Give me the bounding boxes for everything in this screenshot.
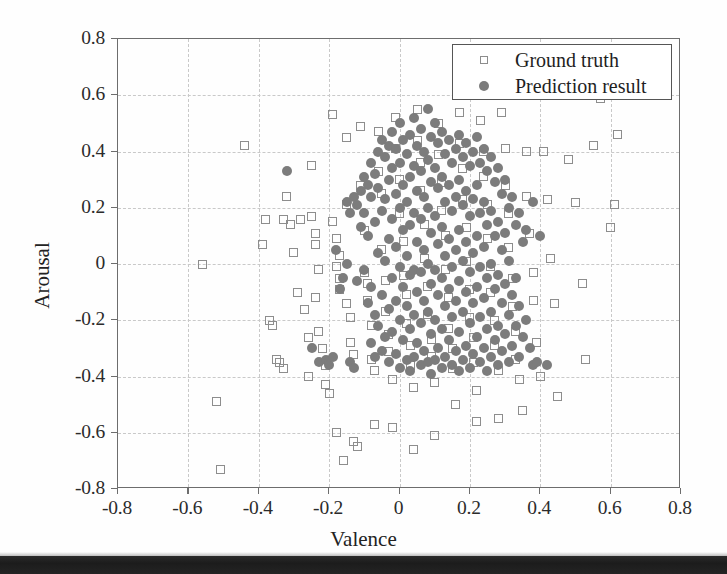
prediction-point (507, 290, 517, 300)
prediction-point (395, 158, 405, 168)
prediction-point (454, 276, 464, 286)
prediction-point (444, 234, 454, 244)
prediction-point (514, 301, 524, 311)
prediction-point (482, 220, 492, 230)
prediction-point (504, 357, 514, 367)
prediction-point (468, 194, 478, 204)
prediction-point (328, 352, 338, 362)
ground-truth-point (370, 420, 379, 429)
ground-truth-point (314, 265, 323, 274)
prediction-point (437, 273, 447, 283)
gridline-vertical (259, 39, 260, 487)
prediction-point (345, 208, 355, 218)
ground-truth-point (370, 366, 379, 375)
prediction-point (366, 192, 376, 202)
y-tick-mark (111, 376, 117, 377)
prediction-point (387, 214, 397, 224)
prediction-point (416, 166, 426, 176)
prediction-point (387, 327, 397, 337)
chart-legend: Ground truth Prediction result (452, 44, 672, 100)
ground-truth-point (314, 327, 323, 336)
y-tick-label: 0.6 (19, 83, 105, 105)
ground-truth-point (342, 299, 351, 308)
prediction-point (391, 296, 401, 306)
prediction-point (458, 200, 468, 210)
x-tick-label: -0.2 (313, 497, 343, 519)
prediction-point (493, 217, 503, 227)
legend-item-ground-truth: Ground truth (453, 47, 671, 73)
prediction-point (500, 279, 510, 289)
prediction-point (472, 282, 482, 292)
prediction-point (447, 206, 457, 216)
prediction-point (373, 321, 383, 331)
prediction-point (458, 256, 468, 266)
prediction-point (405, 130, 415, 140)
y-tick-label: -0.4 (19, 365, 105, 387)
x-axis-label: Valence (0, 527, 727, 552)
ground-truth-point (318, 344, 327, 353)
ground-truth-point (311, 293, 320, 302)
gridline-vertical (540, 39, 541, 487)
scan-bottom-band (0, 556, 727, 574)
prediction-point (398, 282, 408, 292)
prediction-point (497, 298, 507, 308)
ground-truth-point (282, 192, 291, 201)
x-tick-mark (610, 488, 611, 494)
prediction-point (525, 343, 535, 353)
y-axis-label: Arousal (30, 196, 55, 356)
prediction-point (349, 363, 359, 373)
x-tick-mark (469, 488, 470, 494)
prediction-point (497, 245, 507, 255)
prediction-point (338, 273, 348, 283)
prediction-point (426, 369, 436, 379)
prediction-point (444, 335, 454, 345)
ground-truth-point (332, 234, 341, 243)
open-square-icon (453, 56, 515, 64)
prediction-point (475, 208, 485, 218)
y-tick-mark (111, 207, 117, 208)
prediction-point (447, 158, 457, 168)
plot-area (117, 38, 680, 488)
ground-truth-point (216, 465, 225, 474)
gridline-vertical (329, 39, 330, 487)
prediction-point (482, 273, 492, 283)
prediction-point (395, 262, 405, 272)
ground-truth-point (529, 268, 538, 277)
ground-truth-point (409, 383, 418, 392)
prediction-point (504, 310, 514, 320)
ground-truth-point (472, 386, 481, 395)
prediction-point (500, 228, 510, 238)
ground-truth-point (342, 133, 351, 142)
x-tick-label: 0.2 (457, 497, 481, 519)
prediction-point (433, 183, 443, 193)
prediction-point (500, 175, 510, 185)
prediction-point (486, 152, 496, 162)
prediction-point (437, 363, 447, 373)
prediction-point (493, 163, 503, 173)
legend-item-prediction-result: Prediction result (453, 73, 671, 99)
prediction-point (419, 245, 429, 255)
x-tick-label: 0 (394, 497, 404, 519)
ground-truth-point (529, 296, 538, 305)
prediction-point (458, 307, 468, 317)
prediction-point (472, 180, 482, 190)
prediction-point (518, 332, 528, 342)
y-tick-mark (111, 263, 117, 264)
prediction-point (490, 231, 500, 241)
prediction-point (465, 161, 475, 171)
y-tick-label: 0.8 (19, 27, 105, 49)
prediction-point (528, 197, 538, 207)
ground-truth-point (332, 428, 341, 437)
y-tick-mark (111, 319, 117, 320)
prediction-point (444, 180, 454, 190)
ground-truth-point (311, 240, 320, 249)
prediction-point (377, 290, 387, 300)
ground-truth-point (497, 108, 506, 117)
prediction-point (479, 242, 489, 252)
figure-page: -0.8-0.6-0.4-0.200.20.40.60.8 0.80.60.40… (0, 0, 727, 574)
prediction-point (518, 237, 528, 247)
prediction-point (465, 318, 475, 328)
prediction-point (416, 214, 426, 224)
prediction-point (504, 256, 514, 266)
ground-truth-point (589, 141, 598, 150)
